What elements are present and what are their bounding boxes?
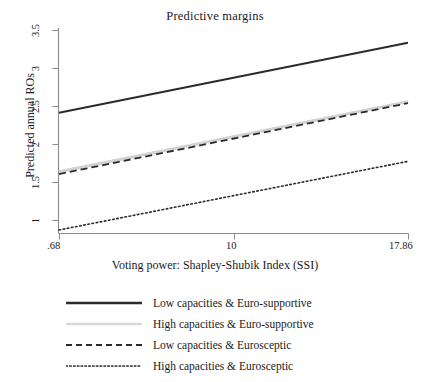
- y-tick-label-2.5: 2.5: [30, 90, 41, 124]
- legend-item-low-capacities-eurosceptic[interactable]: Low capacities & Eurosceptic: [66, 334, 396, 355]
- legend-item-high-capacities-euro-supportive[interactable]: High capacities & Euro-supportive: [66, 313, 396, 334]
- x-axis-title: Voting power: Shapley-Shubik Index (SSI): [0, 258, 430, 273]
- light-solid-line-key: [66, 318, 142, 330]
- legend-label-2: Low capacities & Eurosceptic: [153, 339, 291, 351]
- series-line-high-capacities-euro-supportive: [59, 102, 408, 172]
- x-tick-label-middle: 10: [226, 240, 237, 251]
- y-tick-label-1.5: 1.5: [30, 166, 41, 200]
- legend-label-3: High capacities & Eurosceptic: [153, 360, 293, 372]
- x-tick-label-left: .68: [47, 240, 60, 251]
- series-line-low-capacities-eurosceptic: [59, 103, 408, 174]
- series-line-high-capacities-eurosceptic: [59, 161, 408, 230]
- dashed-line-key: [66, 339, 142, 351]
- series-line-low-capacities-euro-supportive: [59, 43, 408, 113]
- legend: Low capacities & Euro-supportive High ca…: [66, 292, 396, 376]
- legend-label-0: Low capacities & Euro-supportive: [153, 297, 312, 309]
- solid-line-key: [66, 297, 142, 309]
- y-tick-label-3: 3: [30, 52, 41, 86]
- y-tick-label-3.5: 3.5: [30, 14, 41, 48]
- legend-item-low-capacities-euro-supportive[interactable]: Low capacities & Euro-supportive: [66, 292, 396, 313]
- y-tick-label-1: 1: [30, 204, 41, 238]
- chart-title: Predictive margins: [0, 9, 430, 24]
- y-tick-label-2: 2: [30, 128, 41, 162]
- predictive-margins-figure: Predictive margins Predicted annual ROs …: [0, 0, 430, 382]
- x-tick-label-right: 17.86: [389, 240, 413, 251]
- legend-label-1: High capacities & Euro-supportive: [153, 318, 314, 330]
- legend-item-high-capacities-eurosceptic[interactable]: High capacities & Eurosceptic: [66, 355, 396, 376]
- plot-area: [59, 30, 408, 233]
- dotted-line-key: [66, 360, 142, 372]
- plot-lines: [59, 30, 408, 233]
